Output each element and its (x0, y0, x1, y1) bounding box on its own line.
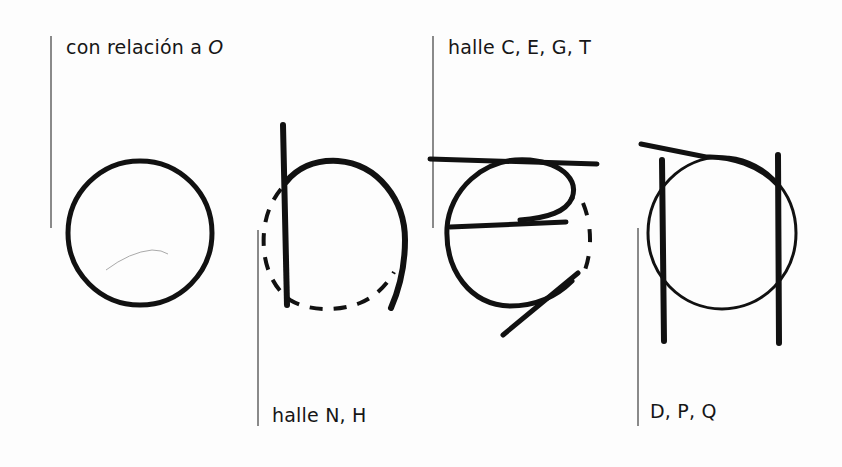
glyph-n-h (264, 125, 405, 309)
letterform-drawings (0, 0, 842, 467)
glyph-d-p-q (641, 144, 796, 343)
glyph-c-e-g-t (430, 159, 597, 335)
glyph-circle-o (68, 161, 212, 305)
